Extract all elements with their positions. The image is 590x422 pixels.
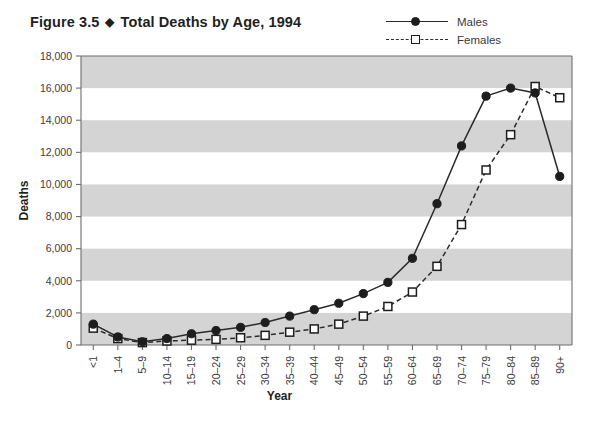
y-tick-label: 2,000 [46,307,72,319]
y-tick-label: 8,000 [46,210,72,222]
y-tick-label: 0 [66,339,72,351]
data-point-marker [359,312,367,320]
data-point-marker [556,94,564,102]
x-tick-label: 1–4 [112,356,124,374]
data-point-marker [286,312,294,320]
data-point-marker [482,92,490,100]
y-axis-ticks: 02,0004,0006,0008,00010,00012,00014,0001… [40,50,81,351]
x-tick-label: 75–79 [480,356,492,385]
x-tick-label: 40–44 [308,356,320,385]
data-point-marker [89,320,97,328]
figure-container: Figure 3.5◆Total Deaths by Age, 1994 Mal… [0,0,590,422]
data-point-marker [114,333,122,341]
y-tick-label: 14,000 [40,114,72,126]
data-point-marker [335,320,343,328]
data-point-marker [556,172,564,180]
data-point-marker [187,330,195,338]
x-tick-label: 20–24 [210,356,222,385]
x-tick-label: 70–74 [456,356,468,385]
y-tick-label: 10,000 [40,178,72,190]
x-tick-label: 45–49 [333,356,345,385]
data-point-marker [212,326,220,334]
data-point-marker [433,262,441,270]
data-point-marker [384,278,392,286]
y-tick-label: 16,000 [40,82,72,94]
y-tick-label: 6,000 [46,242,72,254]
line-chart: 02,0004,0006,0008,00010,00012,00014,0001… [0,0,590,422]
x-tick-label: 5–9 [136,356,148,374]
data-point-marker [138,338,146,346]
y-tick-label: 18,000 [40,50,72,62]
grid-bands [81,56,572,345]
data-point-marker [408,288,416,296]
data-point-marker [237,334,245,342]
x-tick-label: 90+ [554,356,566,374]
x-tick-label: 15–19 [185,356,197,385]
data-point-marker [433,200,441,208]
data-point-marker [286,328,294,336]
y-axis-title: Deaths [17,180,31,220]
x-tick-label: 60–64 [406,356,418,385]
x-tick-label: 85–89 [529,356,541,385]
x-tick-label: 35–39 [284,356,296,385]
data-point-marker [335,299,343,307]
data-point-marker [408,254,416,262]
data-point-marker [261,318,269,326]
data-point-marker [482,166,490,174]
data-point-marker [507,131,515,139]
data-point-marker [384,302,392,310]
data-point-marker [359,290,367,298]
data-point-marker [236,323,244,331]
data-point-marker [458,221,466,229]
x-tick-label: 25–29 [235,356,247,385]
x-tick-label: 55–59 [382,356,394,385]
x-tick-label: 65–69 [431,356,443,385]
data-point-marker [457,142,465,150]
x-axis-ticks: <11–45–910–1415–1920–2425–2930–3435–3940… [87,345,565,385]
x-tick-label: 80–84 [505,356,517,385]
x-tick-label: 10–14 [161,356,173,385]
y-tick-label: 4,000 [46,275,72,287]
x-tick-label: 30–34 [259,356,271,385]
chart-plot-area: 02,0004,0006,0008,00010,00012,00014,0001… [0,0,590,422]
y-tick-label: 12,000 [40,146,72,158]
data-point-marker [310,325,318,333]
data-point-marker [310,306,318,314]
x-tick-label: 50–54 [357,356,369,385]
data-point-marker [212,335,220,343]
data-point-marker [163,334,171,342]
data-point-marker [507,84,515,92]
data-point-marker [261,331,269,339]
x-tick-label: <1 [87,356,99,368]
x-axis-title: Year [267,389,293,403]
data-point-marker [531,89,539,97]
